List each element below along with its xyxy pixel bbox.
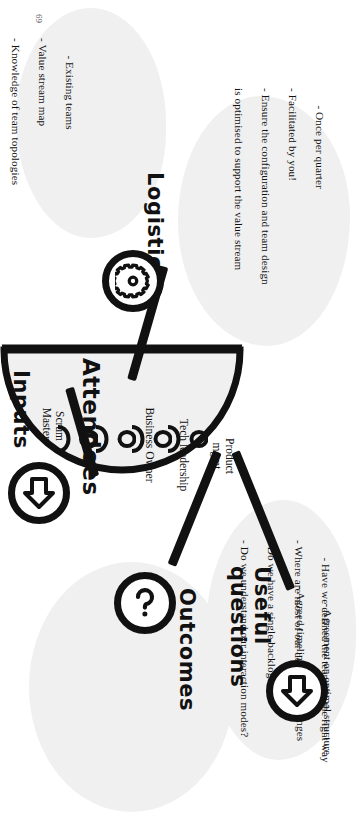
- inputs-items: - Existing teams - Value stream map - Kn…: [0, 38, 90, 185]
- question-mark-circle-icon: [127, 585, 163, 621]
- useful-questions-node[interactable]: [114, 572, 176, 634]
- inputs-item-0: - Existing teams: [64, 55, 76, 129]
- logistics-item-0: - Once per quarter: [314, 105, 326, 188]
- useful-questions-title: Useful questions: [226, 566, 274, 687]
- logistics-node[interactable]: [102, 250, 164, 312]
- inputs-item-2: - Knowledge of team topologies: [10, 38, 22, 185]
- inputs-title: Inputs: [10, 370, 32, 449]
- inputs-node[interactable]: [8, 462, 70, 524]
- person-icon-product-mgmt: [164, 424, 208, 454]
- page-number: 69: [34, 14, 44, 23]
- page-root: Scrum Masters Business Owner Tech leader…: [0, 0, 362, 835]
- logistics-items: - Once per quarter - Facilitated by you!…: [218, 88, 340, 285]
- gear-circle-icon: [115, 263, 151, 299]
- logistics-item-3: is optimised to support the value stream: [233, 88, 245, 270]
- arrow-up-circle-icon: [280, 674, 314, 708]
- arrow-up-circle-icon: [22, 476, 56, 510]
- logistics-item-1: - Facilitated by you!: [287, 88, 299, 181]
- outcomes-node[interactable]: [266, 660, 328, 722]
- diagram-canvas: Scrum Masters Business Owner Tech leader…: [0, 0, 362, 835]
- role-label-product-mgmt: Product mgmt: [210, 418, 236, 494]
- outcomes-title: Outcomes: [176, 588, 198, 711]
- role-label-tech-leadership: Tech leadership: [177, 400, 190, 510]
- inputs-item-1: - Value stream map: [37, 38, 49, 126]
- logistics-item-2: - Ensure the configuration and team desi…: [260, 88, 272, 285]
- attendees-title: Attendees: [78, 358, 104, 496]
